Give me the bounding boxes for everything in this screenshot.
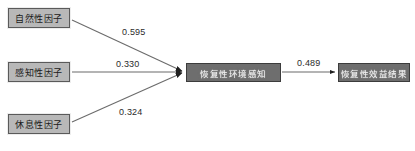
node-restfulness-factor-label: 休息性因子 <box>15 118 63 131</box>
node-mediator[interactable]: 恢复性环境感知 <box>186 63 281 82</box>
node-outcome-label: 恢复性效益结果 <box>341 67 408 79</box>
node-restfulness-factor[interactable]: 休息性因子 <box>8 114 70 134</box>
path-diagram: 自然性因子 感知性因子 休息性因子 恢复性环境感知 恢复性效益结果 0.595 … <box>0 0 415 151</box>
node-naturalness-factor-label: 自然性因子 <box>15 12 63 25</box>
edge-label-naturalness-coefficient: 0.595 <box>122 27 146 37</box>
edge-label-perception-coefficient: 0.330 <box>116 59 140 69</box>
edge-label-restfulness-coefficient: 0.324 <box>119 107 143 117</box>
node-perception-factor[interactable]: 感知性因子 <box>8 62 70 82</box>
node-outcome[interactable]: 恢复性效益结果 <box>338 63 410 82</box>
node-perception-factor-label: 感知性因子 <box>15 66 63 79</box>
node-mediator-label: 恢复性环境感知 <box>200 67 267 79</box>
edge-label-outcome-coefficient: 0.489 <box>297 58 321 68</box>
node-naturalness-factor[interactable]: 自然性因子 <box>8 8 70 28</box>
